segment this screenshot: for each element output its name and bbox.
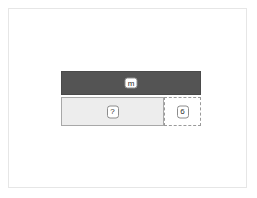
diagram-canvas: m ? 6 xyxy=(8,8,247,188)
dark-bar-row[interactable]: m xyxy=(61,71,201,95)
dashed-region-badge[interactable]: 6 xyxy=(177,105,189,118)
dashed-region[interactable]: 6 xyxy=(164,97,201,126)
dark-bar-badge[interactable]: m xyxy=(125,78,138,89)
light-row-badge[interactable]: ? xyxy=(107,105,119,118)
light-row[interactable]: ? xyxy=(61,97,164,126)
